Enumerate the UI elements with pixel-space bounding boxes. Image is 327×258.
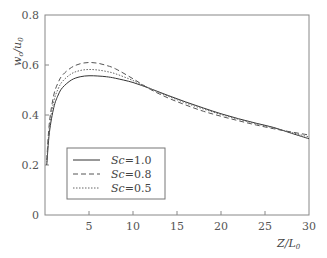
y-tick-label: 0.6 — [22, 59, 40, 72]
x-axis-label: Z/L0 — [276, 237, 301, 251]
legend-item-sc-0-8: Sc=0.8 — [111, 168, 151, 181]
y-tick-label: 0.4 — [22, 109, 40, 122]
x-tick-label: 15 — [170, 220, 184, 233]
axis-ticks: 5101520253000.20.40.60.8 — [22, 9, 317, 233]
y-tick-label: 0 — [32, 209, 39, 222]
x-tick-label: 5 — [86, 220, 93, 233]
y-tick-label: 0.8 — [22, 9, 40, 22]
legend-item-sc-1: Sc=1.0 — [111, 154, 151, 167]
legend-item-sc-0-5: Sc=0.5 — [111, 182, 151, 195]
y-axis-label: wc/u0 — [11, 37, 25, 66]
x-tick-label: 25 — [258, 220, 272, 233]
line-chart: 5101520253000.20.40.60.8 Sc=1.0 Sc=0.8 S… — [0, 0, 327, 258]
x-tick-label: 30 — [302, 220, 316, 233]
series-line-dashed — [47, 62, 309, 160]
x-tick-label: 20 — [214, 220, 228, 233]
x-tick-label: 10 — [126, 220, 140, 233]
y-tick-label: 0.2 — [22, 159, 40, 172]
legend: Sc=1.0 Sc=0.8 Sc=0.5 — [67, 148, 165, 199]
